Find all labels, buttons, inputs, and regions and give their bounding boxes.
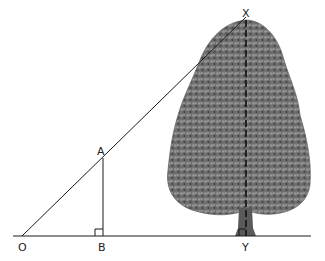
label-O: O <box>18 241 27 254</box>
right-angle-B <box>95 229 103 236</box>
tree-crown <box>167 20 310 215</box>
label-A: A <box>97 145 105 158</box>
label-Y: Y <box>241 241 249 254</box>
diagram-canvas: O B A X Y <box>0 0 325 261</box>
label-X: X <box>242 7 250 20</box>
tree-illustration <box>167 20 310 236</box>
label-B: B <box>98 241 106 254</box>
